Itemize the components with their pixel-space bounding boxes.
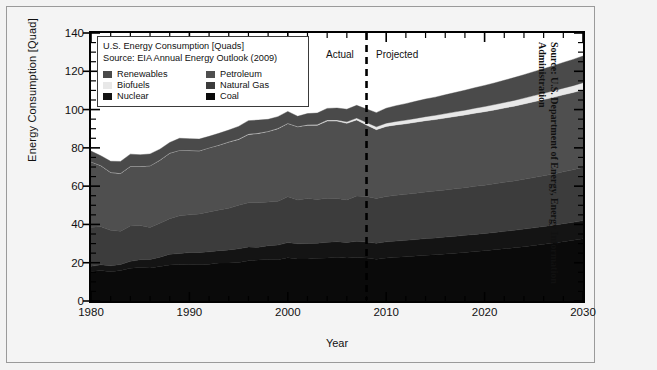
y-tick-label: 120 bbox=[44, 65, 84, 77]
legend-box: U.S. Energy Consumption [Quads] Source: … bbox=[97, 36, 309, 107]
legend-label: Coal bbox=[220, 91, 239, 101]
source-note-line1: Source: U.S. Department of Energy, Energ… bbox=[548, 42, 560, 342]
legend-swatch-icon bbox=[206, 71, 215, 78]
x-tick-label: 2020 bbox=[472, 306, 498, 318]
legend-entries: RenewablesPetroleumBiofuelsNatural GasNu… bbox=[103, 69, 303, 101]
legend-swatch-icon bbox=[103, 93, 112, 100]
annotation-projected: Projected bbox=[376, 49, 418, 60]
annotation-actual: Actual bbox=[326, 49, 354, 60]
y-tick-label: 40 bbox=[44, 218, 84, 230]
legend-swatch-icon bbox=[103, 82, 112, 89]
legend-swatch-icon bbox=[206, 82, 215, 89]
source-note-line2: Administration bbox=[536, 42, 548, 342]
legend-title-line1: U.S. Energy Consumption [Quads] bbox=[103, 41, 303, 53]
y-tick-label: 140 bbox=[44, 27, 84, 39]
legend-item-petroleum: Petroleum bbox=[206, 69, 303, 79]
legend-item-natural-gas: Natural Gas bbox=[206, 80, 303, 90]
source-note: Source: U.S. Department of Energy, Energ… bbox=[536, 42, 560, 342]
x-tick-label: 2030 bbox=[570, 306, 596, 318]
y-tick-label: 80 bbox=[44, 142, 84, 154]
legend-item-renewables: Renewables bbox=[103, 69, 200, 79]
legend-item-nuclear: Nuclear bbox=[103, 91, 200, 101]
legend-swatch-icon bbox=[206, 93, 215, 100]
y-tick-label: 20 bbox=[44, 257, 84, 269]
x-tick-label: 2000 bbox=[275, 306, 301, 318]
legend-label: Natural Gas bbox=[220, 80, 269, 90]
y-tick-label: 100 bbox=[44, 104, 84, 116]
legend-label: Petroleum bbox=[220, 69, 262, 79]
x-axis-tick-labels: 198019902000201020202030 bbox=[89, 306, 585, 324]
x-axis-label: Year bbox=[89, 337, 585, 349]
legend-item-coal: Coal bbox=[206, 91, 303, 101]
x-tick-label: 2010 bbox=[373, 306, 399, 318]
legend-swatch-icon bbox=[103, 71, 112, 78]
y-axis-tick-labels: 020406080100120140 bbox=[40, 31, 84, 303]
legend-title-line2: Source: EIA Annual Energy Outlook (2009) bbox=[103, 53, 303, 65]
y-tick-label: 60 bbox=[44, 180, 84, 192]
figure-root: Energy Consumption [Quad] 02040608010012… bbox=[0, 0, 657, 370]
legend-label: Nuclear bbox=[117, 91, 149, 101]
legend-label: Biofuels bbox=[117, 80, 150, 90]
legend-label: Renewables bbox=[117, 69, 168, 79]
y-axis-label: Energy Consumption [Quad] bbox=[26, 10, 38, 170]
legend-item-biofuels: Biofuels bbox=[103, 80, 200, 90]
x-tick-label: 1980 bbox=[78, 306, 104, 318]
x-tick-label: 1990 bbox=[177, 306, 203, 318]
